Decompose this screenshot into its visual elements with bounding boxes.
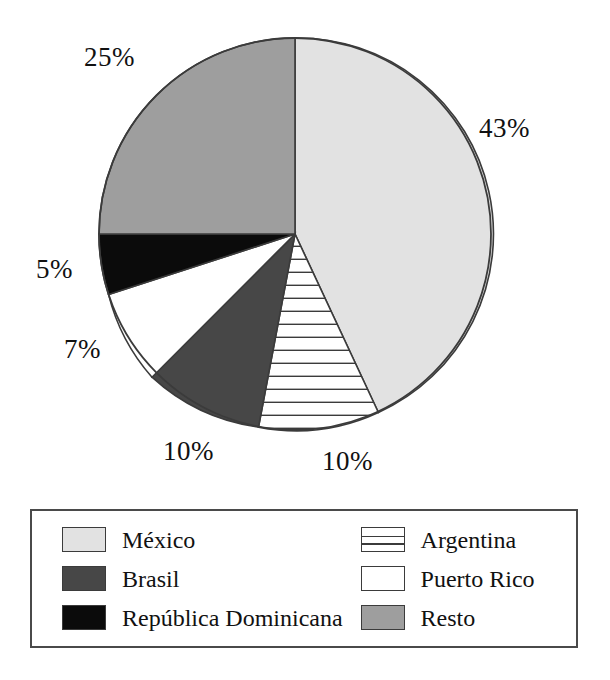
legend-swatch-republica-dominicana-icon [62,605,106,630]
pie-label-republica-dominicana: 5% [36,256,73,283]
pie-label-mexico: 43% [479,115,530,142]
legend-item-argentina: Argentina [343,527,576,552]
stripe-line-2-icon [362,543,404,545]
pie-chart-figure: 43% 25% 5% 7% 10% 10% México Argentina B… [0,0,610,680]
legend-swatch-mexico-icon [62,527,106,552]
legend-label-republica-dominicana: República Dominicana [122,606,343,630]
legend-label-resto: Resto [421,606,476,630]
stripe-line-1-icon [362,536,404,538]
legend-item-republica-dominicana: República Dominicana [32,605,343,630]
legend-swatch-brasil-icon [62,566,106,591]
pie-label-brasil: 10% [163,438,214,465]
pie-label-argentina: 10% [322,448,373,475]
legend-item-mexico: México [32,527,343,552]
legend-grid: México Argentina Brasil Puerto Rico Repú… [32,511,576,646]
pie-plot-area: 43% 25% 5% 7% 10% 10% [0,0,610,470]
pie-label-resto: 25% [84,44,135,71]
legend-item-resto: Resto [343,605,576,630]
legend-item-puerto-rico: Puerto Rico [343,566,576,591]
legend-label-argentina: Argentina [421,528,517,552]
legend-label-brasil: Brasil [122,567,179,591]
chart-legend: México Argentina Brasil Puerto Rico Repú… [30,509,578,648]
pie-label-puerto-rico: 7% [64,336,101,363]
legend-swatch-resto-icon [361,605,405,630]
legend-swatch-argentina-icon [361,527,405,552]
legend-label-mexico: México [122,528,195,552]
legend-item-brasil: Brasil [32,566,343,591]
legend-swatch-puerto-rico-icon [361,566,405,591]
legend-label-puerto-rico: Puerto Rico [421,567,535,591]
